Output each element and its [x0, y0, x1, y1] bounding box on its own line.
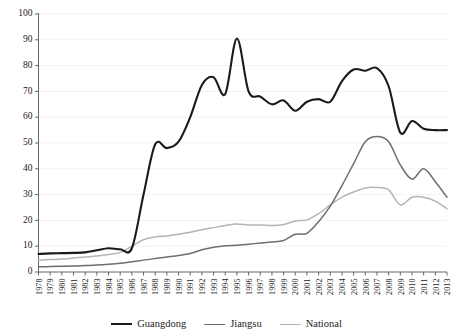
- y-tick-label: 90: [23, 34, 33, 44]
- legend-label: Guangdong: [137, 318, 186, 330]
- x-tick-label: 1980: [58, 279, 67, 295]
- x-tick-label: 2003: [326, 279, 335, 295]
- gridlines: [39, 14, 448, 246]
- x-tick-label: 1983: [93, 279, 102, 295]
- y-tick-label: 10: [23, 240, 33, 250]
- x-tick-label: 2008: [385, 279, 394, 295]
- x-tick-label: 2012: [432, 279, 441, 295]
- y-tick-label: 60: [23, 111, 33, 121]
- y-axis: 0102030405060708090100: [18, 8, 38, 276]
- x-tick-label: 1978: [35, 279, 44, 295]
- x-tick-label: 1985: [116, 279, 125, 295]
- y-tick-label: 0: [28, 266, 33, 276]
- legend-item-national[interactable]: National: [280, 318, 342, 330]
- x-tick-label: 1982: [81, 279, 90, 295]
- x-tick-label: 2005: [350, 279, 359, 295]
- y-tick-label: 40: [23, 163, 33, 173]
- x-tick-label: 2001: [303, 279, 312, 295]
- y-tick-label: 30: [23, 189, 33, 199]
- y-tick-label: 80: [23, 60, 33, 70]
- legend-label: Jiangsu: [230, 318, 262, 330]
- x-tick-label: 1987: [140, 279, 149, 295]
- x-tick-label: 1996: [245, 279, 254, 295]
- x-tick-label: 2009: [397, 279, 406, 295]
- chart-plot-area: 0102030405060708090100 19781979198019811…: [0, 0, 453, 336]
- legend-item-guangdong[interactable]: Guangdong: [111, 318, 186, 330]
- line-chart: 0102030405060708090100 19781979198019811…: [0, 0, 453, 336]
- x-tick-label: 2002: [315, 279, 324, 295]
- x-tick-label: 1997: [256, 279, 265, 295]
- x-tick-label: 2011: [420, 279, 429, 295]
- legend-line-swatch: [280, 324, 301, 325]
- legend-label: National: [306, 318, 342, 330]
- x-tick-label: 1991: [186, 279, 195, 295]
- y-tick-label: 70: [23, 86, 33, 96]
- x-tick-label: 1998: [268, 279, 277, 295]
- x-tick-label: 2000: [291, 279, 300, 295]
- legend-line-swatch: [111, 323, 132, 325]
- legend-item-jiangsu[interactable]: Jiangsu: [204, 318, 262, 330]
- x-tick-label: 2004: [338, 279, 347, 295]
- x-tick-label: 2006: [362, 279, 371, 295]
- y-tick-label: 50: [23, 137, 33, 147]
- x-tick-label: 1994: [221, 279, 230, 295]
- x-tick-label: 1990: [175, 279, 184, 295]
- x-tick-label: 2010: [408, 279, 417, 295]
- x-tick-label: 2007: [373, 279, 382, 295]
- y-tick-label: 100: [18, 8, 33, 18]
- x-tick-label: 1981: [70, 279, 79, 295]
- series-line-guangdong: [39, 39, 448, 254]
- x-tick-label: 1989: [163, 279, 172, 295]
- chart-legend: GuangdongJiangsuNational: [0, 318, 453, 330]
- x-axis: 1978197919801981198219831984198519861987…: [35, 272, 453, 295]
- legend-line-swatch: [204, 324, 225, 325]
- x-tick-label: 1986: [128, 279, 137, 295]
- x-tick-label: 2013: [443, 279, 452, 295]
- x-tick-label: 1988: [151, 279, 160, 295]
- x-tick-label: 1993: [210, 279, 219, 295]
- series-line-jiangsu: [39, 137, 448, 267]
- x-tick-label: 1995: [233, 279, 242, 295]
- series-lines: [39, 39, 448, 267]
- x-tick-label: 1979: [46, 279, 55, 295]
- y-tick-label: 20: [23, 215, 33, 225]
- x-tick-label: 1984: [105, 279, 114, 295]
- x-tick-label: 1992: [198, 279, 207, 295]
- x-tick-label: 1999: [280, 279, 289, 295]
